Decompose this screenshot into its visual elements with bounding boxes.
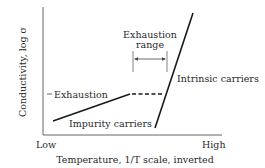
conductivity-temperature-diagram: Exhaustion range Intrinsic carriers Exha…: [0, 0, 265, 168]
exhaustion-range-label-line2: range: [136, 39, 164, 50]
y-axis-label: Conductivity, log σ: [17, 26, 28, 117]
x-axis-label: Temperature, 1/T scale, inverted: [56, 154, 214, 165]
exhaustion-label: Exhaustion: [54, 89, 108, 100]
impurity-carriers-label: Impurity carriers: [69, 118, 152, 129]
range-arrow-right-head-icon: [162, 57, 166, 61]
x-tick-low: Low: [36, 139, 56, 150]
range-arrow-left-head-icon: [134, 57, 138, 61]
x-tick-high: High: [202, 139, 226, 150]
intrinsic-carriers-label: Intrinsic carriers: [177, 73, 259, 84]
